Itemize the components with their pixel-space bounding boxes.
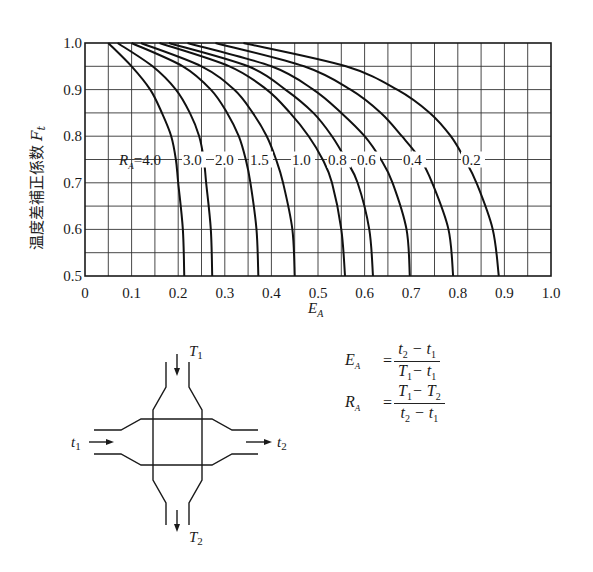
x-tick-label: 0.6 bbox=[355, 285, 374, 301]
curve-label-RA-0.8: 0.8 bbox=[328, 152, 347, 168]
label-T2: T2 bbox=[189, 529, 203, 547]
crossflow-diagram bbox=[89, 354, 272, 532]
x-tick-label: 0.3 bbox=[215, 285, 234, 301]
curve-labels: RA=4.03.02.01.51.00.80.60.40.2 bbox=[118, 152, 485, 171]
y-tick-label: 0.7 bbox=[63, 175, 82, 191]
x-tick-label: 0.5 bbox=[309, 285, 328, 301]
y-tick-label: 1.0 bbox=[63, 35, 82, 51]
curve-label-RA-0.6: 0.6 bbox=[357, 152, 376, 168]
label-T1: T1 bbox=[189, 343, 203, 361]
vertical-channel-right-wall bbox=[189, 362, 202, 525]
y-tick-label: 0.5 bbox=[63, 268, 82, 284]
x-tick-label: 0.8 bbox=[448, 285, 467, 301]
vertical-channel-left-wall bbox=[153, 362, 166, 525]
curve-label-RA-1.0: 1.0 bbox=[292, 152, 311, 168]
x-tick-label: 0.4 bbox=[262, 285, 281, 301]
x-tick-label: 0.7 bbox=[402, 285, 421, 301]
y-axis-label: 温度差補正係数Ft bbox=[28, 126, 48, 250]
arrow-right-icon bbox=[264, 439, 272, 445]
label-t1: t1 bbox=[71, 434, 81, 452]
curve-label-RA-0.4: 0.4 bbox=[403, 152, 422, 168]
horizontal-channel-top-wall bbox=[94, 419, 258, 430]
y-tick-label: 0.9 bbox=[63, 82, 82, 98]
formulas: EA = t2 − t1 T1− t1 RA = T1− T2 t2 − t1 bbox=[345, 340, 445, 424]
x-tick-label: 0 bbox=[81, 285, 89, 301]
label-t2: t2 bbox=[277, 434, 287, 452]
y-axis-ticks: 0.50.60.70.80.91.0 bbox=[63, 35, 82, 284]
horizontal-channel-bottom-wall bbox=[94, 454, 258, 465]
diagram-labels: T1 T2 t1 t2 bbox=[71, 343, 287, 547]
y-tick-label: 0.8 bbox=[63, 128, 82, 144]
x-axis-ticks: 00.10.20.30.40.50.60.70.80.91.0 bbox=[81, 285, 560, 301]
curve-label-RA-2.0: 2.0 bbox=[215, 152, 234, 168]
arrow-down-icon bbox=[174, 368, 180, 376]
formula-RA: RA = T1− T2 t2 − t1 bbox=[345, 382, 445, 424]
x-tick-label: 0.2 bbox=[169, 285, 188, 301]
correction-factor-chart: 00.10.20.30.40.50.60.70.80.91.0 0.50.60.… bbox=[0, 0, 593, 572]
x-tick-label: 0.1 bbox=[122, 285, 141, 301]
curve-label-RA-0.2: 0.2 bbox=[462, 152, 481, 168]
x-axis-label: EA bbox=[307, 300, 324, 319]
curve-label-RA-1.5: 1.5 bbox=[250, 152, 269, 168]
x-tick-label: 1.0 bbox=[542, 285, 561, 301]
y-tick-label: 0.6 bbox=[63, 221, 82, 237]
formula-EA: EA = t2 − t1 T1− t1 bbox=[345, 340, 445, 382]
x-tick-label: 0.9 bbox=[495, 285, 514, 301]
arrow-down-icon bbox=[174, 524, 180, 532]
curve-label-RA-3.0: 3.0 bbox=[183, 152, 202, 168]
arrow-right-icon bbox=[106, 439, 114, 445]
